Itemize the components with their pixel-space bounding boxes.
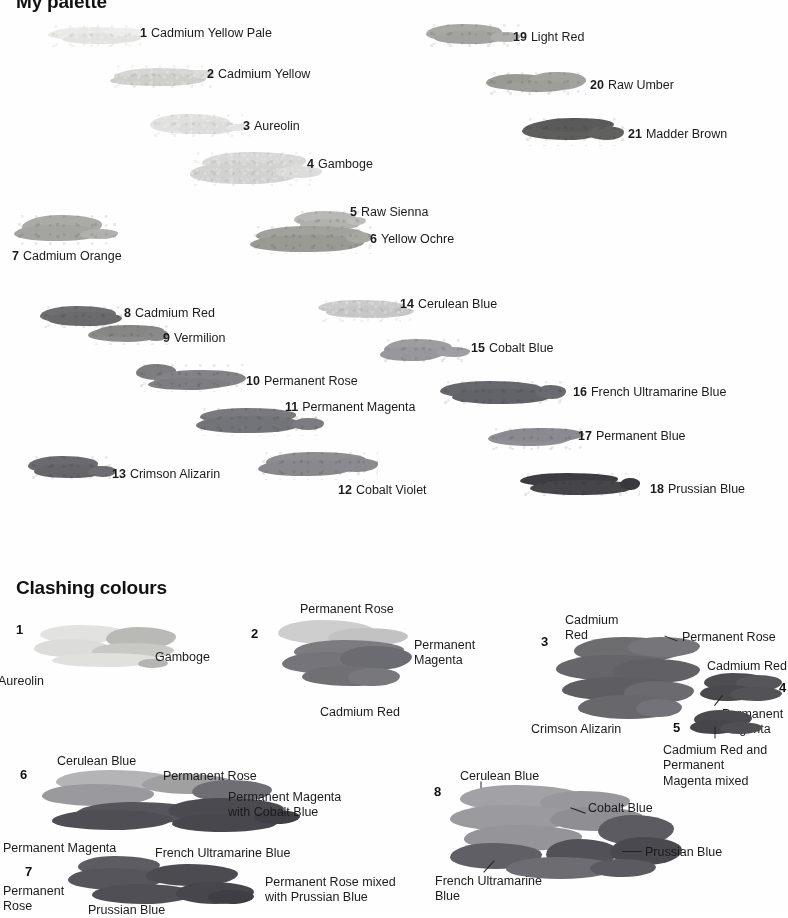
clash-label-8-prussian-blue: Prussian Blue (645, 845, 722, 860)
swatch-name-9: Vermilion (174, 331, 225, 345)
swatch-name-14: Cerulean Blue (418, 297, 497, 311)
clash-number-3: 3 (541, 634, 548, 649)
clash-label-7-permanent-rose-mixed: Permanent Rose mixed with Prussian Blue (265, 875, 396, 906)
section-title-clashing-colours: Clashing colours (16, 577, 167, 599)
swatch-label-20: 20Raw Umber (590, 78, 674, 93)
swatch-12-cobalt-violet (258, 452, 378, 480)
clash-number-6: 6 (20, 767, 27, 782)
swatch-label-8: 8Cadmium Red (124, 306, 215, 321)
clash-label-8-cerulean-blue: Cerulean Blue (460, 769, 539, 784)
clash-number-5: 5 (673, 720, 680, 735)
swatch-name-3: Aureolin (254, 119, 300, 133)
clash-swatch-2 (278, 620, 412, 692)
swatch-9-vermilion (88, 325, 168, 345)
swatch-label-6: 6Yellow Ochre (370, 232, 454, 247)
swatch-1-cadmium-yellow-pale (48, 25, 144, 47)
clash-number-8: 8 (434, 784, 441, 799)
clash-number-4: 4 (779, 680, 786, 695)
clash-label-8-cobalt-blue: Cobalt Blue (588, 801, 653, 816)
swatch-label-3: 3Aureolin (243, 119, 300, 134)
swatch-label-7: 7Cadmium Orange (12, 249, 122, 264)
swatch-6-yellow-ochre (250, 226, 372, 254)
clash-label-6-permanent-magenta: Permanent Magenta (3, 841, 116, 856)
swatch-17-permanent-blue (488, 428, 584, 450)
clash-label-6-cerulean-blue: Cerulean Blue (57, 754, 136, 769)
swatch-label-18: 18Prussian Blue (650, 482, 745, 497)
swatch-name-5: Raw Sienna (361, 205, 428, 219)
clash-number-1: 1 (16, 622, 23, 637)
swatch-name-20: Raw Umber (608, 78, 674, 92)
swatch-number-7: 7 (12, 249, 19, 263)
swatch-2-cadmium-yellow (110, 65, 214, 89)
clash-swatch-5 (690, 710, 762, 740)
swatch-label-15: 15Cobalt Blue (471, 341, 554, 356)
clash-label-2-cadmium-red: Cadmium Red (320, 705, 400, 720)
swatch-label-9: 9Vermilion (163, 331, 225, 346)
swatch-number-2: 2 (207, 67, 214, 81)
swatch-name-13: Crimson Alizarin (130, 467, 220, 481)
swatch-label-4: 4Gamboge (307, 157, 373, 172)
clash-label-1-aureolin: Aureolin (0, 674, 44, 689)
swatch-3-aureolin (150, 114, 250, 138)
swatch-label-14: 14Cerulean Blue (400, 297, 497, 312)
swatch-name-16: French Ultramarine Blue (591, 385, 726, 399)
swatch-number-18: 18 (650, 482, 664, 496)
swatch-number-17: 17 (578, 429, 592, 443)
swatch-number-4: 4 (307, 157, 314, 171)
swatch-label-10: 10Permanent Rose (246, 374, 358, 389)
swatch-number-21: 21 (628, 127, 642, 141)
clash-label-6-permanent-magenta-cobalt: Permanent Magenta with Cobalt Blue (228, 790, 341, 821)
swatch-4-gamboge (190, 152, 322, 186)
swatch-name-8: Cadmium Red (135, 306, 215, 320)
page-title-my-palette: My palette (16, 0, 107, 13)
swatch-label-1: 1Cadmium Yellow Pale (140, 26, 272, 41)
swatch-label-19: 19Light Red (513, 30, 584, 45)
swatch-label-16: 16French Ultramarine Blue (573, 385, 726, 400)
swatch-number-19: 19 (513, 30, 527, 44)
swatch-name-11: Permanent Magenta (302, 400, 415, 414)
swatch-number-8: 8 (124, 306, 131, 320)
swatch-name-10: Permanent Rose (264, 374, 358, 388)
swatch-number-10: 10 (246, 374, 260, 388)
clash-number-7: 7 (25, 864, 32, 879)
swatch-name-21: Madder Brown (646, 127, 727, 141)
clash-swatch-4 (700, 673, 782, 707)
swatch-label-11: 11Permanent Magenta (285, 400, 415, 415)
swatch-name-19: Light Red (531, 30, 585, 44)
clash-label-3-permanent-rose: Permanent Rose (682, 630, 776, 645)
swatch-number-6: 6 (370, 232, 377, 246)
swatch-number-20: 20 (590, 78, 604, 92)
swatch-21-madder-brown (522, 118, 624, 146)
swatch-label-17: 17Permanent Blue (578, 429, 686, 444)
swatch-name-12: Cobalt Violet (356, 483, 427, 497)
swatch-20-raw-umber (486, 72, 586, 96)
swatch-15-cobalt-blue (380, 339, 470, 363)
swatch-name-15: Cobalt Blue (489, 341, 554, 355)
clash-label-2-permanent-rose: Permanent Rose (300, 602, 394, 617)
swatch-label-2: 2Cadmium Yellow (207, 67, 310, 82)
clash-number-2: 2 (251, 626, 258, 641)
swatch-number-15: 15 (471, 341, 485, 355)
clash-leader-5 (715, 727, 716, 739)
swatch-name-1: Cadmium Yellow Pale (151, 26, 272, 40)
swatch-label-21: 21Madder Brown (628, 127, 727, 142)
swatch-16-french-ultramarine-blue (440, 381, 566, 407)
swatch-19-light-red (426, 24, 520, 48)
swatch-name-17: Permanent Blue (596, 429, 686, 443)
swatch-number-5: 5 (350, 205, 357, 219)
swatch-name-2: Cadmium Yellow (218, 67, 310, 81)
clash-label-4-cadmium-red: Cadmium Red (707, 659, 787, 674)
clash-leader-8-prussian (622, 851, 642, 852)
swatch-7-cadmium-orange (14, 215, 118, 245)
clash-label-8-french-ultramarine-blue: French Ultramarine Blue (435, 874, 542, 905)
swatch-number-12: 12 (338, 483, 352, 497)
clash-label-1-gamboge: Gamboge (155, 650, 210, 665)
swatch-name-7: Cadmium Orange (23, 249, 122, 263)
clash-swatch-3 (556, 637, 704, 727)
swatch-number-14: 14 (400, 297, 414, 311)
swatch-number-11: 11 (285, 400, 298, 414)
swatch-18-prussian-blue (520, 473, 640, 499)
clash-label-6-permanent-rose: Permanent Rose (163, 769, 257, 784)
clash-label-7-permanent-rose: Permanent Rose (3, 884, 64, 915)
